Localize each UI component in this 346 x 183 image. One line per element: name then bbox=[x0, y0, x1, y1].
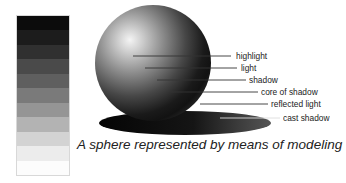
sphere bbox=[95, 5, 211, 121]
label-highlight: highlight bbox=[236, 51, 267, 61]
label-shadow: shadow bbox=[249, 75, 278, 85]
label-cast-shadow: cast shadow bbox=[283, 113, 329, 123]
label-reflected-light: reflected light bbox=[271, 99, 321, 109]
label-light: light bbox=[241, 63, 256, 73]
cast-shadow bbox=[99, 111, 271, 135]
label-core-of-shadow: core of shadow bbox=[261, 87, 318, 97]
figure-caption: A sphere represented by means of modelin… bbox=[77, 137, 342, 152]
